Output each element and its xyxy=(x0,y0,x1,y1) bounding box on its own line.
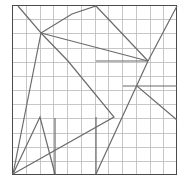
figure-container xyxy=(0,0,186,184)
line-drawing-figure xyxy=(0,0,186,184)
figure-plate xyxy=(12,5,177,175)
figure-background xyxy=(12,5,177,175)
